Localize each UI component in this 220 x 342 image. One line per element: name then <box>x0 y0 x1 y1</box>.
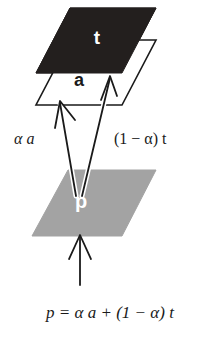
figure-container: t a p α a (1 − α) t p = α a + (1 − α) t <box>0 0 220 342</box>
plane-p-shape <box>32 170 156 236</box>
plane-p-label: p <box>68 190 94 213</box>
label-alpha-a: α a <box>14 130 34 148</box>
arrow-input-p <box>69 235 91 285</box>
plane-t-label: t <box>84 27 110 49</box>
alpha-compositing-diagram <box>0 0 220 342</box>
label-one-minus-alpha-t: (1 − α) t <box>114 130 167 148</box>
equation-text: p = α a + (1 − α) t <box>0 303 220 323</box>
plane-a-label: a <box>66 70 92 91</box>
